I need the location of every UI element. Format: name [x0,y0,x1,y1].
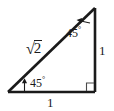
right-angle-marker [87,83,95,91]
radical-group: √2 [26,40,42,57]
vertical-leg-length-label: 1 [99,44,106,57]
triangle-diagram-svg [0,0,114,111]
triangle-side-hypotenuse [8,8,95,92]
right-angle-square-icon [87,83,95,91]
angle-top-degree-symbol: ° [78,25,81,34]
angle-top-label: 45° [66,26,81,39]
hypotenuse-length-label: √2 [26,40,42,57]
horizontal-leg-length-label: 1 [47,96,54,109]
triangle-figure: √2 1 1 45° 45° [0,0,114,111]
angle-bottom-arrow [22,78,27,91]
angle-bottom-left-value: 45 [30,76,42,90]
angle-bottom-left-degree-symbol: ° [42,75,45,84]
triangle-outline [8,8,95,92]
angle-top-value: 45 [66,26,78,40]
radicand-value: 2 [34,40,43,57]
angle-bottom-left-label: 45° [30,76,45,89]
